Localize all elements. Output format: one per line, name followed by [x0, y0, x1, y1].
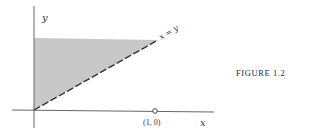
figure: y x (1, 0) x = y FIGURE 1.2: [0, 0, 316, 139]
x-axis: [12, 110, 214, 112]
point-1-0-marker: [153, 109, 158, 114]
x-axis-label: x: [200, 117, 206, 128]
line-label: x = y: [158, 23, 181, 41]
point-label: (1, 0): [143, 118, 161, 127]
y-axis-label: y: [41, 12, 48, 23]
figure-caption: FIGURE 1.2: [236, 68, 285, 78]
